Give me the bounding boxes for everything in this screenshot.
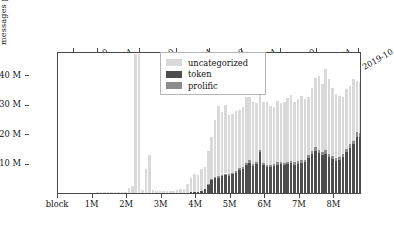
bar-segment-uncategorized: [162, 191, 164, 193]
bar-segment-token: [356, 137, 358, 193]
x-tick-mark: [333, 194, 334, 198]
bar-group: [349, 86, 351, 193]
bar-segment-prolific: [290, 161, 292, 163]
bar-segment-uncategorized: [221, 112, 223, 176]
bar-segment-uncategorized: [290, 95, 292, 160]
bar-segment-uncategorized: [245, 97, 247, 163]
bar-group: [172, 191, 174, 193]
bar-segment-uncategorized: [110, 192, 112, 193]
bar-segment-token: [276, 165, 278, 193]
y-tick-mark: [25, 164, 29, 165]
bar-group: [166, 191, 168, 193]
bar-segment-token: [300, 163, 302, 193]
bar-segment-token: [204, 189, 206, 193]
bar-segment-prolific: [311, 151, 313, 154]
bar-group: [148, 155, 150, 193]
bar-segment-token: [190, 192, 192, 193]
bar-segment-token: [314, 151, 316, 193]
bar-segment-token: [311, 154, 313, 193]
legend-item-uncategorized[interactable]: uncategorized: [166, 57, 260, 69]
bar-segment-token: [324, 154, 326, 193]
bar-segment-prolific: [318, 150, 320, 153]
bar-group: [214, 120, 216, 193]
x-tick-label: 5M: [223, 199, 237, 209]
bar-segment-uncategorized: [141, 190, 143, 193]
bar-group: [321, 84, 323, 193]
bar-segment-token: [217, 178, 219, 193]
bar-segment-token: [352, 144, 354, 193]
bar-segment-token: [273, 166, 275, 193]
bar-segment-prolific: [352, 141, 354, 145]
legend-item-token[interactable]: token: [166, 69, 260, 81]
bar-segment-uncategorized: [286, 98, 288, 162]
bar-segment-uncategorized: [252, 102, 254, 164]
y-tick-label: 40 M: [0, 70, 21, 80]
legend-swatch-token: [166, 71, 182, 78]
bar-segment-token: [331, 159, 333, 193]
bar-segment-prolific: [359, 133, 361, 137]
bar-group: [183, 189, 185, 193]
bar-segment-uncategorized: [166, 191, 168, 193]
bar-group: [356, 81, 358, 193]
bar-segment-prolific: [276, 162, 278, 164]
bar-segment-token: [255, 164, 257, 193]
bar-segment-token: [221, 176, 223, 193]
x-tick-mark: [161, 194, 162, 198]
bar-segment-uncategorized: [193, 174, 195, 192]
bar-segment-prolific: [242, 167, 244, 169]
bar-segment-uncategorized: [204, 167, 206, 189]
x-tick-mark: [57, 194, 58, 198]
bar-group: [293, 102, 295, 193]
bar-segment-uncategorized: [172, 191, 174, 193]
legend-label-token: token: [188, 70, 212, 78]
bar-group: [197, 175, 199, 193]
bar-group: [297, 99, 299, 193]
bar-segment-token: [359, 137, 361, 193]
bar-segment-uncategorized: [176, 190, 178, 193]
bar-group: [331, 88, 333, 193]
bar-segment-uncategorized: [100, 192, 102, 193]
bar-segment-prolific: [286, 162, 288, 164]
bar-group: [259, 94, 261, 193]
bar-segment-token: [224, 175, 226, 193]
bar-segment-token: [286, 164, 288, 193]
bar-segment-prolific: [269, 165, 271, 167]
bar-group: [262, 102, 264, 193]
bar-segment-uncategorized: [107, 192, 109, 193]
bar-segment-uncategorized: [273, 107, 275, 164]
legend-label-prolific: prolific: [188, 82, 218, 90]
bar-group: [162, 191, 164, 193]
bar-segment-uncategorized: [328, 79, 330, 154]
bar-segment-prolific: [214, 177, 216, 178]
bar-group: [228, 115, 230, 193]
bar-segment-prolific: [245, 163, 247, 165]
bar-segment-prolific: [356, 132, 358, 136]
bar-segment-uncategorized: [103, 192, 105, 193]
bar-segment-uncategorized: [224, 105, 226, 173]
bar-group: [231, 114, 233, 193]
bar-group: [117, 192, 119, 193]
bar-segment-prolific: [307, 155, 309, 158]
bar-group: [200, 169, 202, 193]
bar-group: [290, 95, 292, 193]
y-tick-mark: [25, 134, 29, 135]
bar-segment-prolific: [259, 150, 261, 153]
bar-segment-token: [307, 158, 309, 193]
bar-group: [311, 88, 313, 193]
bar-segment-prolific: [293, 162, 295, 164]
bar-group: [255, 103, 257, 193]
bar-segment-token: [338, 160, 340, 193]
bar-group: [224, 105, 226, 193]
bar-group: [235, 111, 237, 193]
bar-segment-uncategorized: [342, 97, 344, 154]
bar-group: [352, 79, 354, 193]
bar-segment-token: [304, 162, 306, 193]
bar-group: [335, 94, 337, 193]
bar-segment-prolific: [297, 161, 299, 163]
bar-group: [131, 186, 133, 193]
bar-group: [152, 190, 154, 193]
bar-group: [128, 188, 130, 193]
legend-item-prolific[interactable]: prolific: [166, 80, 260, 92]
bar-segment-uncategorized: [269, 106, 271, 165]
bar-group: [204, 167, 206, 193]
